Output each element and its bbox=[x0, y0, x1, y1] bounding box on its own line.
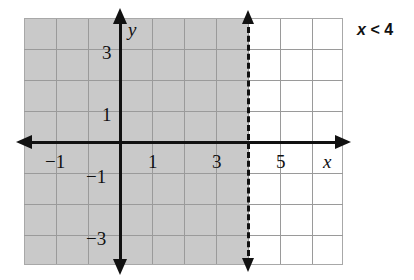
gridline-horizontal bbox=[24, 173, 343, 174]
inequality-caption: x<4 bbox=[357, 21, 394, 39]
gridline-horizontal bbox=[24, 18, 343, 19]
caption-value: 4 bbox=[384, 21, 393, 38]
gridline-horizontal bbox=[24, 264, 343, 265]
gridline-horizontal bbox=[24, 80, 343, 81]
x-axis-label: x bbox=[323, 152, 331, 171]
y-tick-label-1: 1 bbox=[102, 105, 112, 124]
y-axis-arrow-down bbox=[113, 259, 127, 275]
coordinate-plane-graph: 3 1 −1 −3 −1 1 3 5 y x bbox=[24, 18, 343, 265]
x-tick-label-neg1: −1 bbox=[45, 152, 65, 171]
caption-variable: x bbox=[357, 21, 366, 38]
x-axis-arrow-left bbox=[16, 135, 32, 149]
x-tick-label-3: 3 bbox=[212, 152, 222, 171]
y-tick-label-neg3: −3 bbox=[86, 229, 106, 248]
y-axis-label: y bbox=[128, 20, 136, 39]
x-axis-arrow-right bbox=[335, 135, 351, 149]
gridline-horizontal bbox=[24, 49, 343, 50]
y-tick-label-3: 3 bbox=[102, 43, 112, 62]
x-tick-label-5: 5 bbox=[276, 152, 286, 171]
y-tick-label-neg1: −1 bbox=[86, 167, 106, 186]
caption-relation: < bbox=[370, 21, 380, 38]
gridline-horizontal bbox=[24, 235, 343, 236]
boundary-arrow-up bbox=[242, 10, 254, 24]
y-axis-arrow-up bbox=[113, 8, 127, 24]
gridline-horizontal bbox=[24, 204, 343, 205]
boundary-line-dashed bbox=[247, 18, 250, 265]
gridline-horizontal bbox=[24, 111, 343, 112]
y-axis bbox=[119, 18, 122, 265]
boundary-arrow-down bbox=[242, 258, 254, 272]
x-axis bbox=[24, 141, 343, 144]
x-tick-label-1: 1 bbox=[148, 152, 158, 171]
